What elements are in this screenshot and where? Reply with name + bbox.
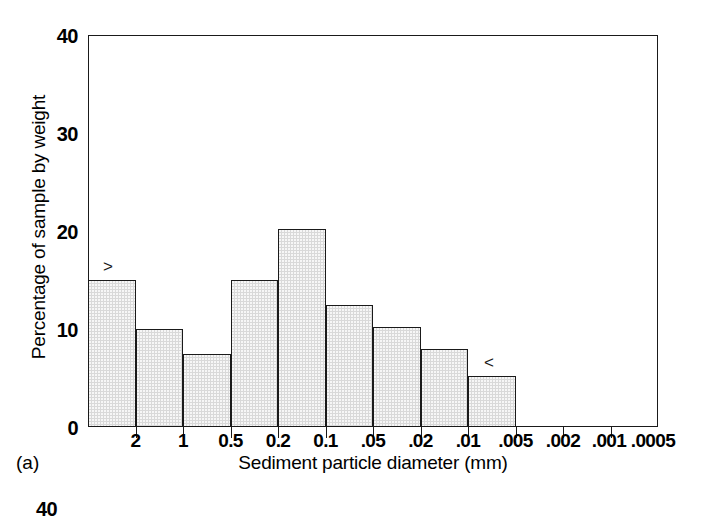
bar-3 <box>231 280 279 427</box>
bar-7 <box>421 349 469 427</box>
annotation-greater-than: > <box>103 258 113 275</box>
bar-8 <box>468 376 516 427</box>
bar-6 <box>373 327 421 427</box>
x-axis-title: Sediment particle diameter (mm) <box>88 452 658 474</box>
bar-5 <box>326 305 374 428</box>
y-tick-label-0: 0 <box>18 418 78 438</box>
annotation-less-than: < <box>484 354 494 371</box>
bar-0 <box>88 280 136 427</box>
figure-panel-a: Percentage of sample by weight 40 30 20 … <box>0 0 718 516</box>
bar-1 <box>136 329 184 427</box>
y-tick-label-30: 30 <box>18 124 78 144</box>
bar-2 <box>183 354 231 428</box>
panel-label: (a) <box>16 452 39 474</box>
y-tick-label-10: 10 <box>18 320 78 340</box>
next-panel-partial-tick-label: 40 <box>36 499 57 516</box>
y-tick-label-40: 40 <box>18 26 78 46</box>
y-tick-label-20: 20 <box>18 222 78 242</box>
x-tick-label-p0005: .0005 <box>613 431 693 450</box>
bar-4 <box>278 229 326 427</box>
